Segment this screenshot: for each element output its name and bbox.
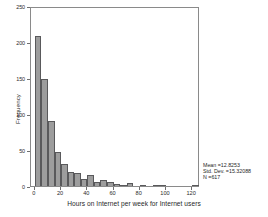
histogram-bar bbox=[48, 121, 55, 186]
histogram-bar bbox=[140, 185, 147, 186]
histogram-bar bbox=[114, 184, 121, 186]
plot-area bbox=[30, 7, 199, 187]
x-tick-label: 0 bbox=[24, 190, 44, 197]
x-tick-mark bbox=[113, 187, 114, 190]
statistics-annotation: Mean =12.8253 Std. Dev. =15.32088 N =617 bbox=[203, 162, 266, 181]
x-tick-label: 120 bbox=[181, 190, 201, 197]
x-tick-mark bbox=[139, 187, 140, 190]
x-tick-mark bbox=[191, 187, 192, 190]
stat-n: N =617 bbox=[203, 174, 266, 180]
histogram-bar bbox=[192, 185, 199, 186]
y-tick-label: 50 bbox=[7, 148, 25, 154]
y-tick-label: 200 bbox=[7, 40, 25, 46]
y-tick-label: 100 bbox=[7, 112, 25, 118]
y-tick-label: 250 bbox=[7, 4, 25, 10]
y-tick-label: 150 bbox=[7, 76, 25, 82]
x-tick-mark bbox=[165, 187, 166, 190]
y-tick-mark bbox=[27, 187, 30, 188]
y-tick-label: 0 bbox=[7, 184, 25, 190]
x-axis-label: Hours on Internet per week for Internet … bbox=[0, 200, 268, 207]
x-tick-label: 20 bbox=[50, 190, 70, 197]
x-tick-mark bbox=[86, 187, 87, 190]
x-tick-mark bbox=[60, 187, 61, 190]
histogram-bars bbox=[31, 8, 198, 186]
x-tick-mark bbox=[34, 187, 35, 190]
x-tick-label: 60 bbox=[103, 190, 123, 197]
histogram-figure: Frequency 050100150200250 02040608010012… bbox=[0, 0, 268, 217]
y-axis-label: Frequency bbox=[14, 93, 21, 123]
x-tick-label: 40 bbox=[76, 190, 96, 197]
x-tick-label: 100 bbox=[155, 190, 175, 197]
histogram-bar bbox=[159, 185, 166, 186]
histogram-bar bbox=[81, 179, 88, 186]
x-tick-label: 80 bbox=[129, 190, 149, 197]
histogram-bar bbox=[127, 183, 134, 186]
